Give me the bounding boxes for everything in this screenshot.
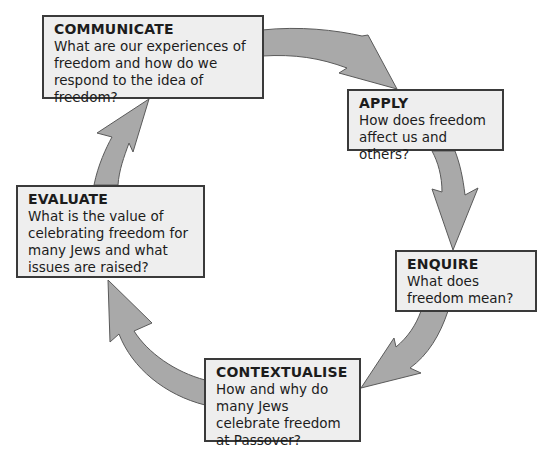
stage-question: What are our experiences of freedom and … [54,38,254,106]
stage-apply: APPLY How does freedom affect us and oth… [347,89,504,151]
stage-title: ENQUIRE [407,256,527,273]
stage-contextualise: CONTEXTUALISE How and why do many Jews c… [204,358,361,442]
stage-communicate: COMMUNICATE What are our experiences of … [42,15,264,99]
arrow-evaluate-to-communicate [94,99,149,185]
stage-question: What does freedom mean? [407,273,527,307]
arrow-communicate-to-apply [262,28,397,89]
stage-evaluate: EVALUATE What is the value of celebratin… [16,185,205,278]
stage-question: How does freedom affect us and others? [359,112,494,163]
stage-title: CONTEXTUALISE [216,364,351,381]
arrow-enquire-to-contextualise [361,311,448,388]
stage-question: How and why do many Jews celebrate freed… [216,381,351,449]
stage-title: EVALUATE [28,191,195,208]
arrow-apply-to-enquire [432,151,478,250]
stage-title: COMMUNICATE [54,21,254,38]
arrow-contextualise-to-evaluate [108,280,205,405]
stage-question: What is the value of celebrating freedom… [28,208,195,276]
stage-title: APPLY [359,95,494,112]
stage-enquire: ENQUIRE What does freedom mean? [395,250,537,312]
